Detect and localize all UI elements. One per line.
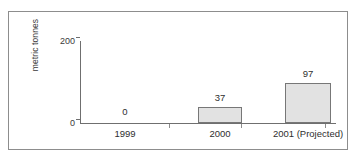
- y-tick-mark-200: [76, 37, 80, 38]
- bar-value-2001-projected: 97: [283, 69, 333, 79]
- bar-2001-projected: [285, 83, 331, 123]
- y-tick-mark-0: [76, 119, 80, 120]
- bar-value-2000: 37: [195, 93, 245, 103]
- category-label-2000: 2000: [195, 129, 245, 139]
- category-label-1999: 1999: [100, 129, 150, 139]
- x-tick-mark-1: [169, 124, 170, 128]
- x-axis-line: [80, 123, 336, 124]
- x-tick-mark-2: [241, 124, 242, 128]
- y-axis-line: [80, 41, 81, 123]
- category-label-2001-projected: 2001 (Projected): [265, 129, 351, 139]
- bar-value-1999: 0: [100, 107, 150, 117]
- y-axis-title: metric tonnes: [30, 7, 40, 83]
- clipped-header-text: [96, 0, 216, 3]
- y-tick-label-0: 0: [70, 119, 75, 128]
- chart-page: metric tonnes 200 0 0 1999 37 2000 97: [0, 0, 357, 167]
- plot-area: 200 0 0 1999 37 2000 97 2001 (Projected): [80, 41, 337, 123]
- y-tick-label-200: 200: [60, 37, 75, 46]
- chart-frame: metric tonnes 200 0 0 1999 37 2000 97: [8, 11, 348, 150]
- bar-2000: [198, 107, 242, 123]
